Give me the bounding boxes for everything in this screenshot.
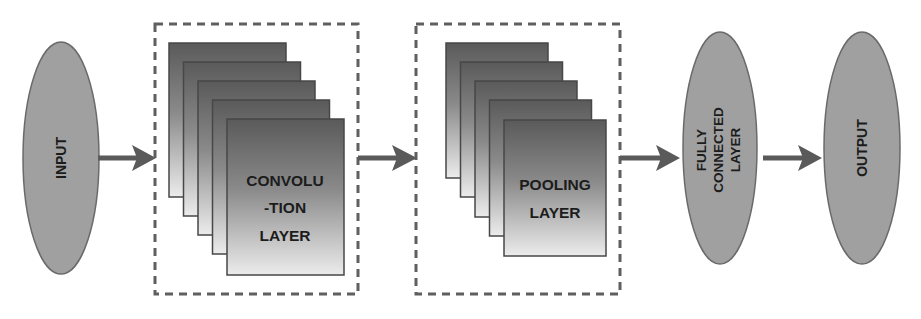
- cnn-diagram: INPUT CONVOLU -TION LAYER: [0, 0, 921, 319]
- fully-connected-label-line-1: FULLY: [694, 129, 709, 171]
- feature-map-stack: [169, 43, 344, 275]
- convolution-label-line-2: -TION: [264, 199, 306, 216]
- convolution-label-line-1: CONVOLU: [246, 172, 324, 189]
- output-label: OUTPUT: [854, 119, 870, 177]
- fully-connected-label-line-3: LAYER: [728, 127, 743, 172]
- convolution-layer-group: CONVOLU -TION LAYER: [155, 24, 358, 294]
- fully-connected-label-line-2: CONNECTED: [711, 107, 726, 193]
- input-label: INPUT: [53, 137, 69, 179]
- convolution-label-line-3: LAYER: [259, 227, 310, 244]
- feature-map: [227, 119, 344, 275]
- pooling-label-line-2: LAYER: [529, 204, 580, 221]
- arrow-input-to-conv: [98, 145, 156, 171]
- arrow-pool-to-fc: [620, 145, 680, 171]
- arrow-fc-to-output: [763, 145, 822, 171]
- feature-map-stack: [446, 43, 606, 256]
- input-node: INPUT: [23, 42, 99, 274]
- pooling-layer-group: POOLING LAYER: [416, 24, 620, 294]
- arrow-conv-to-pool: [358, 145, 417, 171]
- output-node: OUTPUT: [824, 32, 900, 264]
- pooling-label-line-1: POOLING: [519, 176, 590, 193]
- fully-connected-node: FULLY CONNECTED LAYER: [683, 32, 757, 264]
